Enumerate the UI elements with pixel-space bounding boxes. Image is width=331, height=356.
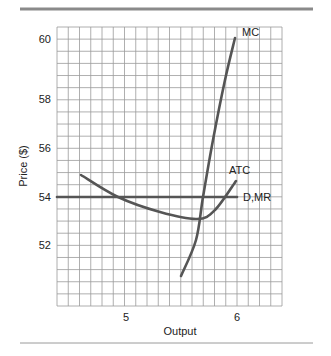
x-tick-label: 6 [234,311,240,323]
price-output-chart: 6058565452 56 MCATCD,MR Price ($) Output [0,0,331,356]
y-axis-ticks: 6058565452 [39,33,51,251]
y-tick-label: 54 [39,191,51,203]
y-tick-label: 52 [39,239,51,251]
x-axis-title: Output [163,325,196,337]
y-tick-label: 58 [39,93,51,105]
x-tick-label: 5 [123,311,129,323]
mc-curve-label: MC [242,26,259,38]
x-axis-ticks: 56 [123,311,240,323]
mc-curve [181,38,235,276]
y-tick-label: 56 [39,142,51,154]
y-tick-label: 60 [39,33,51,45]
curve-labels: MCATCD,MR [229,26,271,203]
atc-curve-label: ATC [229,164,250,176]
d-mr-curve-label: D,MR [243,191,271,203]
y-axis-title: Price ($) [17,145,29,187]
